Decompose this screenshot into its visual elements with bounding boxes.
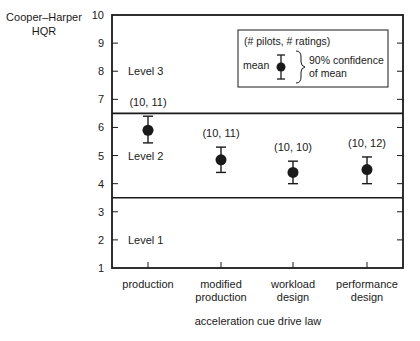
legend-mean-label: mean <box>243 59 269 71</box>
y-tick-label: 10 <box>92 9 104 21</box>
legend-ci-label-line2: of mean <box>309 67 347 79</box>
level-label: Level 2 <box>128 150 163 162</box>
data-point-group: (10, 11) <box>202 127 239 172</box>
y-tick-label: 5 <box>98 150 104 162</box>
y-tick-label: 1 <box>98 262 104 274</box>
data-point-group: (10, 12) <box>348 137 386 184</box>
data-points: (10, 11)(10, 11)(10, 10)(10, 12) <box>129 96 386 183</box>
y-axis-label-line1: Cooper–Harper <box>6 11 82 23</box>
x-category-label-line2: production <box>195 291 246 303</box>
x-axis-label: acceleration cue drive law <box>195 315 322 327</box>
y-tick-label: 7 <box>98 93 104 105</box>
mean-marker <box>288 167 299 178</box>
mean-marker <box>143 125 154 136</box>
point-count-label: (10, 12) <box>348 137 386 149</box>
x-category-label-line1: performance <box>336 278 398 290</box>
level-regions: Level 3Level 2Level 1 <box>112 65 403 246</box>
legend-header: (# pilots, # ratings) <box>244 35 330 47</box>
legend-mean-marker-icon <box>277 63 286 72</box>
point-count-label: (10, 11) <box>129 96 166 108</box>
y-tick-label: 2 <box>98 234 104 246</box>
y-axis-label-line2: HQR <box>32 25 57 37</box>
hqr-chart: 12345678910 Level 3Level 2Level 1 (10, 1… <box>0 0 420 341</box>
data-point-group: (10, 11) <box>129 96 166 143</box>
y-tick-label: 4 <box>98 178 104 190</box>
x-category-label-line2: design <box>277 291 309 303</box>
legend: (# pilots, # ratings)mean90% confidenceo… <box>238 30 388 87</box>
y-tick-label: 6 <box>98 121 104 133</box>
y-tick-label: 3 <box>98 206 104 218</box>
x-category-label-line1: workload <box>270 278 315 290</box>
level-label: Level 1 <box>128 234 163 246</box>
x-category-label-line1: production <box>122 278 173 290</box>
x-category-label-line2: design <box>351 291 383 303</box>
point-count-label: (10, 10) <box>274 141 312 153</box>
x-category-label-line1: modified <box>200 278 242 290</box>
point-count-label: (10, 11) <box>202 127 239 139</box>
y-tick-label: 9 <box>98 37 104 49</box>
y-tick-label: 8 <box>98 65 104 77</box>
level-label: Level 3 <box>128 65 163 77</box>
legend-ci-label-line1: 90% confidence <box>309 54 384 66</box>
mean-marker <box>362 164 373 175</box>
data-point-group: (10, 10) <box>274 141 312 183</box>
mean-marker <box>216 154 227 165</box>
